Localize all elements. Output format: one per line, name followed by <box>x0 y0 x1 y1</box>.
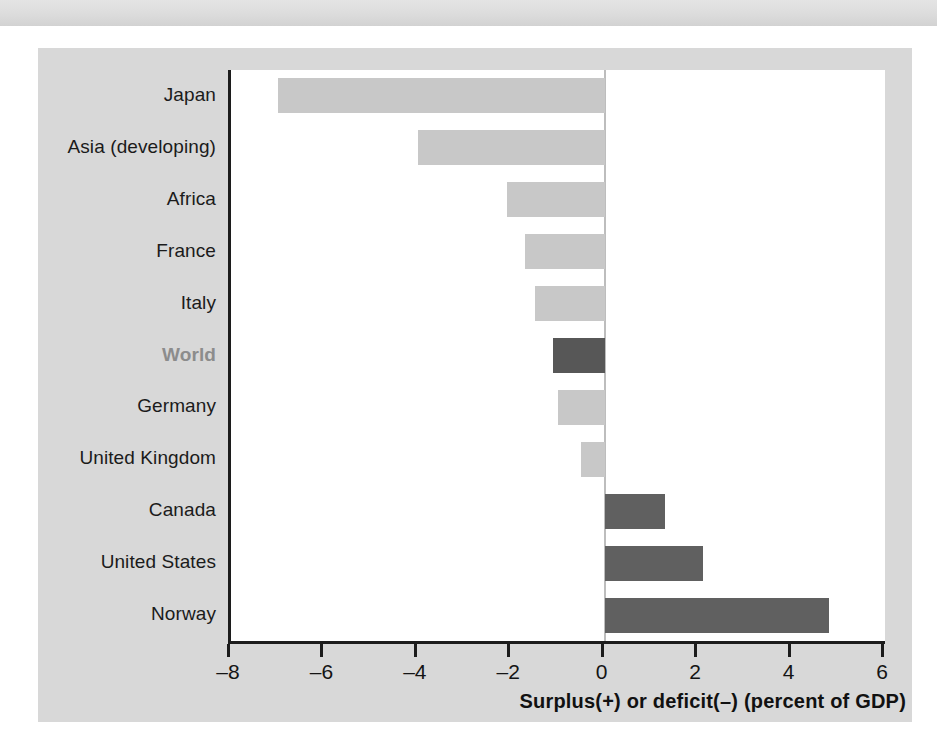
category-label: Japan <box>164 84 216 106</box>
category-label: United States <box>101 551 216 573</box>
bar <box>535 286 605 321</box>
x-axis-tick-label: 0 <box>596 660 608 684</box>
x-axis-tick-label: 6 <box>876 660 888 684</box>
bottom-caption-fragment <box>0 736 937 755</box>
x-axis-tick <box>788 644 791 657</box>
bar <box>418 130 605 165</box>
category-label: United Kingdom <box>79 447 216 469</box>
x-axis-tick-label: –4 <box>403 660 426 684</box>
figure-panel: JapanAsia (developing)AfricaFranceItalyW… <box>38 48 912 722</box>
x-axis-tick <box>414 644 417 657</box>
x-axis-tick-layer: –8–6–4–20246 <box>228 644 885 694</box>
x-axis-tick <box>601 644 604 657</box>
x-axis-tick <box>881 644 884 657</box>
x-axis-tick-label: –6 <box>310 660 333 684</box>
plot-frame <box>228 70 885 644</box>
bar <box>581 442 604 477</box>
category-label-column: JapanAsia (developing)AfricaFranceItalyW… <box>38 70 216 644</box>
bar <box>507 182 605 217</box>
category-label: Italy <box>181 292 216 314</box>
bar <box>605 494 666 529</box>
x-axis-tick-label: 4 <box>783 660 795 684</box>
category-label: World <box>162 344 216 366</box>
x-axis-tick <box>694 644 697 657</box>
category-label: Canada <box>149 499 216 521</box>
x-axis-tick <box>507 644 510 657</box>
bar <box>278 78 605 113</box>
category-label: France <box>156 240 216 262</box>
bar <box>525 234 604 269</box>
category-label: Germany <box>137 395 216 417</box>
x-axis-tick <box>320 644 323 657</box>
bar <box>553 338 604 373</box>
category-label: Africa <box>167 188 216 210</box>
x-axis-tick <box>227 644 230 657</box>
category-label: Norway <box>151 603 216 625</box>
bar <box>605 598 829 633</box>
category-label: Asia (developing) <box>67 136 216 158</box>
x-axis-title: Surplus(+) or deficit(–) (percent of GDP… <box>519 690 906 713</box>
bar <box>558 390 605 425</box>
x-axis-tick-label: 2 <box>689 660 701 684</box>
x-axis-tick-label: –2 <box>497 660 520 684</box>
plot-area <box>231 70 885 641</box>
bar <box>605 546 703 581</box>
x-axis-tick-label: –8 <box>216 660 239 684</box>
page-top-band <box>0 0 937 26</box>
